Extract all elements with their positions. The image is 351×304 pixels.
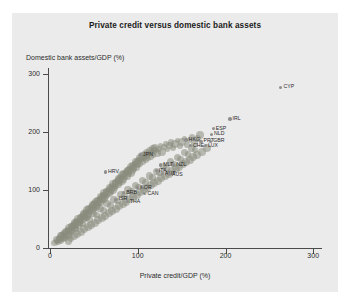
x-axis-label: Private credit/GDP (%): [12, 272, 338, 279]
point-label: CAN: [147, 191, 158, 196]
y-tick-label: 200: [14, 128, 40, 135]
labeled-point-marker: [126, 200, 129, 203]
figure-container: Private credit versus domestic bank asse…: [0, 0, 351, 304]
x-tick-label: 100: [125, 252, 151, 259]
chart-title: Private credit versus domestic bank asse…: [12, 21, 338, 30]
y-tick: [43, 132, 48, 133]
labeled-point-marker: [228, 117, 231, 120]
x-tick-label: 0: [37, 252, 63, 259]
x-tick-label: 300: [300, 252, 326, 259]
point-label: HRV: [108, 169, 119, 174]
x-tick-label: 200: [213, 252, 239, 259]
point-label: JPN: [143, 152, 153, 157]
labeled-point-marker: [104, 170, 107, 173]
point-label: CHE: [193, 143, 204, 148]
labeled-point-marker: [139, 153, 142, 156]
point-label: BRB: [126, 190, 137, 195]
y-tick: [43, 248, 48, 249]
point-label: IRL: [233, 116, 241, 121]
y-tick: [43, 190, 48, 191]
point-label: NZL: [176, 162, 186, 167]
labeled-point-marker: [279, 86, 282, 89]
y-tick: [43, 74, 48, 75]
labeled-point-marker: [210, 133, 213, 136]
labeled-point-marker: [184, 138, 187, 141]
y-tick-label: 300: [14, 70, 40, 77]
point-label: NLD: [214, 131, 225, 136]
y-tick-label: 100: [14, 186, 40, 193]
plot-area: 0100200300 0100200300 CYPIRLESPNLDHKGPRT…: [50, 68, 322, 248]
point-label: AUS: [172, 172, 183, 177]
y-axis-line: [48, 68, 49, 249]
point-label: THA: [130, 199, 141, 204]
y-tick-label: 0: [14, 244, 40, 251]
point-label: CYP: [283, 84, 294, 89]
x-axis-line: [48, 248, 322, 249]
y-axis-label: Domestic bank assets/GDP (%): [26, 54, 124, 61]
point-label: KOR: [140, 185, 151, 190]
labeled-point-marker: [168, 173, 171, 176]
point-label: LUX: [208, 143, 218, 148]
